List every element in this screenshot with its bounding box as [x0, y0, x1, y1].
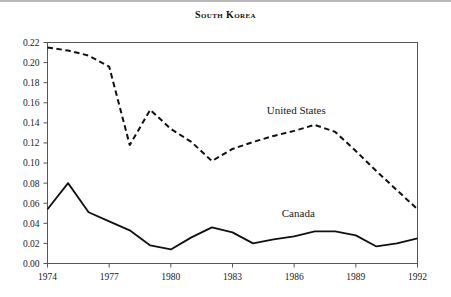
y-tick-label: 0.16: [23, 98, 40, 108]
y-tick-label: 0.10: [23, 158, 40, 168]
y-tick-label: 0.00: [23, 259, 40, 269]
y-tick-label: 0.06: [23, 199, 40, 209]
x-tick-label: 1992: [408, 272, 427, 282]
series-label-united-states: United States: [267, 104, 326, 116]
y-tick-label: 0.12: [23, 138, 40, 148]
y-axis: 0.000.020.040.060.080.100.120.140.160.18…: [23, 38, 48, 269]
chart-page: South Korea 0.000.020.040.060.080.100.12…: [0, 0, 451, 297]
x-axis: 1974197719801983198619891992: [38, 264, 427, 282]
x-tick-label: 1986: [285, 272, 304, 282]
series-line-canada: [48, 183, 418, 249]
y-tick-label: 0.02: [23, 239, 40, 249]
x-tick-label: 1974: [38, 272, 57, 282]
y-tick-label: 0.18: [23, 78, 40, 88]
series-lines: [48, 48, 418, 250]
plot-border: [48, 43, 418, 264]
y-tick-label: 0.22: [23, 38, 40, 48]
line-chart: 0.000.020.040.060.080.100.120.140.160.18…: [0, 0, 451, 297]
x-tick-label: 1983: [223, 272, 242, 282]
x-tick-label: 1989: [346, 272, 365, 282]
series-line-united-states: [48, 48, 418, 210]
plot-frame: [48, 43, 418, 264]
y-tick-label: 0.08: [23, 179, 40, 189]
x-tick-label: 1980: [161, 272, 180, 282]
series-annotations: United StatesCanada: [267, 104, 326, 219]
y-tick-label: 0.20: [23, 58, 40, 68]
x-tick-label: 1977: [100, 272, 119, 282]
y-tick-label: 0.04: [23, 219, 40, 229]
y-tick-label: 0.14: [23, 118, 40, 128]
series-label-canada: Canada: [282, 207, 315, 219]
